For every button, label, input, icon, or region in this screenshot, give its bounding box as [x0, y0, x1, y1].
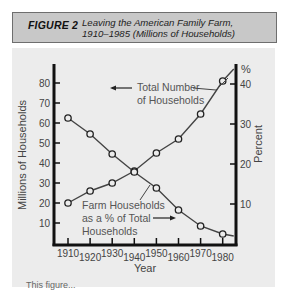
- x-tick-label: 1980: [212, 252, 235, 263]
- data-point-marker: [197, 223, 203, 229]
- data-point-marker: [175, 207, 181, 213]
- left-axis-ticks: 1020304050607080: [39, 78, 60, 229]
- arrow-left-icon: [110, 86, 132, 91]
- data-point-marker: [109, 151, 115, 157]
- left-tick-label: 40: [39, 158, 51, 169]
- total-households-label: Total Number of Households: [110, 78, 228, 106]
- left-tick-label: 70: [39, 98, 51, 109]
- data-point-marker: [65, 200, 71, 206]
- right-tick-label: 30: [240, 119, 252, 130]
- right-axis-ticks: 10203040: [230, 79, 252, 210]
- data-point-marker: [197, 111, 203, 117]
- x-tick-label: 1950: [145, 248, 168, 259]
- left-axis-title: Millions of Households: [16, 99, 28, 210]
- right-axis-title: Percent: [252, 125, 264, 163]
- data-point-marker: [131, 169, 137, 175]
- figure-caption-partial: This figure...: [26, 280, 76, 290]
- left-tick-label: 10: [39, 218, 51, 229]
- total-households-label-line-2: of Households: [137, 94, 204, 106]
- left-tick-label: 60: [39, 118, 51, 129]
- data-point-marker: [153, 150, 159, 156]
- data-point-marker: [220, 231, 226, 237]
- left-tick-label: 30: [39, 178, 51, 189]
- data-point-marker: [87, 188, 93, 194]
- farm-percent-label-line-2: as a % of Total: [82, 212, 151, 224]
- right-tick-label: 10: [240, 199, 252, 210]
- x-tick-label: 1920: [79, 252, 102, 263]
- farm-percent-leader-line: [140, 185, 150, 200]
- right-tick-label: 40: [240, 79, 252, 90]
- right-tick-label: 20: [240, 159, 252, 170]
- arrow-right-icon: [153, 216, 176, 221]
- data-point-marker: [153, 185, 159, 191]
- x-axis-ticks: 19101920193019401950196019701980: [57, 238, 234, 263]
- x-tick-label: 1930: [101, 248, 124, 259]
- farm-percent-label-line-1: Farm Households: [82, 199, 165, 211]
- data-point-marker: [175, 136, 181, 142]
- x-axis-title: Year: [134, 262, 157, 274]
- total-households-label-line-1: Total Number: [137, 81, 200, 93]
- farm-percent-label-line-3: Households: [82, 225, 137, 237]
- left-tick-label: 80: [39, 78, 51, 89]
- data-point-marker: [87, 131, 93, 137]
- x-tick-label: 1970: [189, 248, 212, 259]
- left-tick-label: 20: [39, 198, 51, 209]
- x-tick-label: 1910: [57, 248, 80, 259]
- data-point-marker: [65, 115, 71, 121]
- right-axis-unit: %: [241, 63, 251, 75]
- left-tick-label: 50: [39, 138, 51, 149]
- x-tick-label: 1960: [167, 252, 190, 263]
- data-point-marker: [109, 180, 115, 186]
